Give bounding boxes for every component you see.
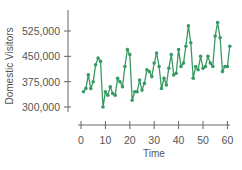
- data-point: [96, 56, 100, 60]
- data-point: [118, 80, 122, 84]
- data-point: [84, 87, 88, 91]
- data-point: [177, 48, 181, 52]
- data-point: [121, 85, 125, 89]
- data-point: [199, 55, 203, 59]
- data-point: [191, 77, 195, 81]
- x-tick-label: 60: [222, 134, 234, 146]
- data-series: [82, 21, 232, 109]
- data-point: [162, 77, 166, 81]
- x-axis: 0102030405060: [78, 121, 233, 146]
- data-point: [218, 36, 222, 40]
- x-tick-label: 10: [100, 134, 112, 146]
- data-point: [174, 71, 178, 75]
- data-point: [194, 65, 198, 69]
- x-tick-label: 0: [78, 134, 84, 146]
- data-point: [167, 66, 171, 70]
- data-point: [228, 44, 232, 48]
- data-point: [126, 48, 130, 52]
- data-point: [143, 82, 147, 86]
- y-tick-label: 450,000: [22, 50, 60, 62]
- y-axis: 300,000375,000450,000525,000: [22, 10, 71, 113]
- data-point: [209, 61, 213, 65]
- data-point: [155, 51, 159, 55]
- data-point: [94, 63, 98, 67]
- data-point: [189, 41, 193, 45]
- x-tick-label: 30: [148, 134, 160, 146]
- data-point: [148, 70, 152, 74]
- data-point: [87, 73, 91, 77]
- x-axis-title: Time: [143, 148, 165, 159]
- data-point: [211, 65, 215, 69]
- data-point: [104, 90, 108, 94]
- y-tick-label: 525,000: [22, 25, 60, 37]
- x-tick-label: 40: [173, 134, 185, 146]
- data-point: [150, 75, 154, 79]
- data-point: [204, 65, 208, 69]
- data-point: [99, 60, 103, 64]
- data-point: [196, 68, 200, 72]
- data-point: [130, 98, 134, 102]
- data-point: [101, 105, 105, 109]
- y-axis-title: Domestic Visitors: [4, 27, 15, 104]
- data-point: [123, 65, 127, 69]
- data-point: [152, 61, 156, 65]
- data-point: [109, 85, 113, 89]
- data-point: [216, 21, 220, 25]
- data-point: [128, 53, 132, 57]
- data-point: [106, 93, 110, 97]
- x-tick-label: 50: [197, 134, 209, 146]
- data-point: [226, 65, 230, 69]
- y-tick-label: 375,000: [22, 76, 60, 88]
- data-point: [91, 80, 95, 84]
- data-point: [140, 88, 144, 92]
- data-point: [157, 65, 161, 69]
- data-point: [113, 93, 117, 97]
- data-point: [206, 55, 210, 59]
- data-point: [116, 77, 120, 81]
- data-point: [138, 78, 142, 82]
- data-point: [165, 83, 169, 87]
- data-point: [160, 87, 164, 91]
- time-series-chart: 300,000375,000450,000525,000 01020304050…: [0, 0, 242, 170]
- data-point: [187, 24, 191, 28]
- data-point: [213, 34, 217, 38]
- series-line: [83, 23, 229, 107]
- y-tick-label: 300,000: [22, 101, 60, 113]
- data-point: [179, 65, 183, 69]
- data-point: [184, 44, 188, 48]
- data-point: [89, 87, 93, 91]
- data-point: [182, 61, 186, 65]
- data-point: [135, 90, 139, 94]
- data-point: [170, 53, 174, 57]
- x-tick-label: 20: [124, 134, 136, 146]
- data-point: [221, 70, 225, 74]
- data-point: [82, 90, 86, 94]
